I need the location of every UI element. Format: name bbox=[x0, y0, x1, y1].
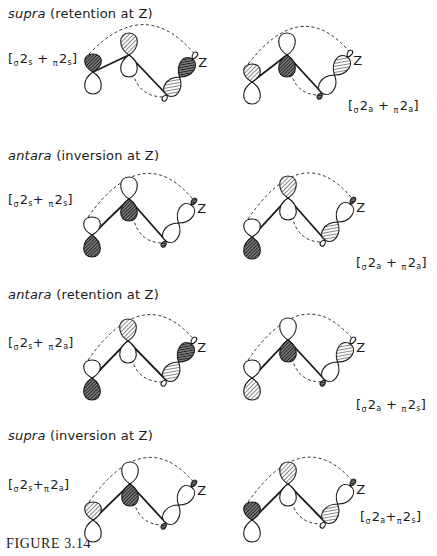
orbital-diagrams: ZZZZZZZZ bbox=[0, 0, 437, 556]
p-orbital-lobe-lower bbox=[280, 484, 297, 506]
p-orbital-lobe-lower bbox=[85, 520, 102, 542]
dashed-overlap-arc bbox=[292, 502, 322, 524]
z-atom-label: Z bbox=[198, 55, 207, 70]
p-orbital-lobe-upper bbox=[85, 502, 102, 520]
z-atom-label: Z bbox=[197, 340, 206, 355]
p-orbital-lobe-upper bbox=[244, 502, 261, 520]
p-orbital-lobe-upper bbox=[121, 33, 138, 55]
p-orbital-lobe-lower bbox=[84, 235, 101, 257]
p-orbital-lobe-lower bbox=[121, 199, 138, 221]
p-orbital-lobe-lower bbox=[280, 340, 297, 362]
diagram-r2-right: Z bbox=[244, 173, 366, 259]
p-orbital-lobe-upper bbox=[122, 462, 139, 484]
dashed-overlap-arc bbox=[248, 26, 350, 64]
z-atom-label: Z bbox=[356, 200, 365, 215]
p-orbital-lobe-lower bbox=[84, 378, 101, 400]
diagram-r3-right: Z bbox=[244, 314, 366, 400]
p-orbital-lobe-lower bbox=[85, 72, 102, 94]
p-orbital-lobe-upper bbox=[280, 462, 297, 484]
diagram-r1-left: Z bbox=[85, 25, 208, 102]
p-orbital-lobe-lower bbox=[244, 520, 261, 542]
p-orbital-lobe-lower bbox=[122, 484, 139, 506]
p-orbital-lobe-upper bbox=[244, 64, 261, 82]
diagram-r4-left: Z bbox=[85, 457, 207, 542]
z-atom-label: Z bbox=[353, 53, 362, 68]
z-atom-label: Z bbox=[356, 482, 365, 497]
z-atom-label: Z bbox=[356, 340, 365, 355]
dashed-overlap-arc bbox=[134, 502, 163, 525]
dashed-overlap-arc bbox=[89, 25, 195, 55]
p-orbital-lobe-lower bbox=[279, 55, 296, 77]
p-orbital-lobe-upper bbox=[84, 217, 101, 235]
diagram-r4-right: Z bbox=[244, 457, 366, 542]
p-orbital-lobe-upper bbox=[279, 33, 296, 55]
z-atom-label: Z bbox=[197, 483, 206, 498]
p-orbital-lobe-upper bbox=[244, 219, 261, 237]
p-orbital-lobe-lower bbox=[280, 198, 297, 220]
diagram-r1-right: Z bbox=[244, 26, 363, 104]
dashed-overlap-arc bbox=[132, 359, 163, 382]
p-orbital-lobe-upper bbox=[280, 176, 297, 198]
p-orbital-lobe-upper bbox=[84, 360, 101, 378]
z-atom-label: Z bbox=[197, 201, 206, 216]
p-orbital-lobe-upper bbox=[120, 319, 137, 341]
p-orbital-lobe-lower bbox=[244, 378, 261, 400]
p-orbital-lobe-upper bbox=[280, 318, 297, 340]
diagram-r3-left: Z bbox=[84, 315, 207, 400]
p-orbital-lobe-upper bbox=[121, 177, 138, 199]
diagram-r2-left: Z bbox=[84, 173, 207, 257]
p-orbital-lobe-lower bbox=[244, 237, 261, 259]
p-orbital-lobe-lower bbox=[120, 341, 137, 363]
p-orbital-lobe-lower bbox=[244, 82, 261, 104]
p-orbital-lobe-upper bbox=[244, 360, 261, 378]
